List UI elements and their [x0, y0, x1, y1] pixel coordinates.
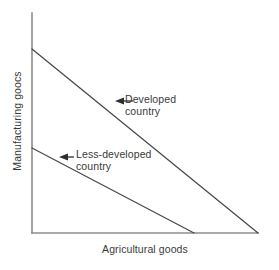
annotation-developed-country-line2: country: [125, 105, 176, 117]
y-axis-title-container: Manufacturing goocs: [11, 58, 27, 184]
annotation-developed-country: Developed country: [125, 93, 176, 117]
annotation-less-developed-country: Less-developed country: [76, 148, 152, 172]
annotation-less-developed-country-line1: Less-developed: [76, 148, 152, 160]
annotation-developed-country-line1: Developed: [125, 93, 176, 105]
annotation-less-developed-country-line2: country: [76, 160, 152, 172]
ppf-chart-figure: Developed country Less-developed country…: [0, 0, 279, 270]
x-axis-title: Agricultural goods: [32, 243, 258, 255]
chart-plot-area: [0, 0, 279, 270]
y-axis-title: Manufacturing goocs: [11, 58, 23, 184]
series-line-developed-country: [32, 49, 258, 233]
arrow-left-icon-less-developed: [59, 153, 74, 160]
